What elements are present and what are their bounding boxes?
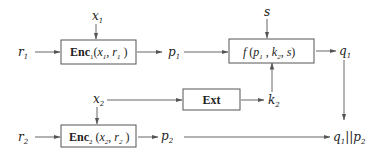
f-label: f (p1 , k2, s): [243, 45, 295, 61]
node-enc2: Enc2 (x2, r2 ): [61, 125, 136, 147]
node-ext: Ext: [183, 89, 240, 110]
label-k2: k2: [268, 93, 280, 109]
diagram-canvas: Enc1(x1, r1 ) f (p1 , k2, s) Ext Enc2 (x…: [0, 0, 375, 155]
ext-label: Ext: [203, 93, 221, 107]
node-f: f (p1 , k2, s): [229, 39, 314, 63]
label-q1-concat-p2: q1||p2: [333, 130, 366, 146]
label-x1: x1: [92, 9, 103, 25]
edges: [35, 19, 344, 137]
label-r2: r2: [18, 130, 29, 146]
label-r1: r1: [18, 45, 28, 61]
node-enc1: Enc1(x1, r1 ): [61, 40, 136, 64]
label-p2: p2: [161, 129, 174, 145]
label-x2: x2: [93, 92, 105, 108]
label-q1: q1: [339, 44, 351, 60]
label-s: s: [264, 5, 270, 19]
label-p1: p1: [168, 45, 180, 61]
